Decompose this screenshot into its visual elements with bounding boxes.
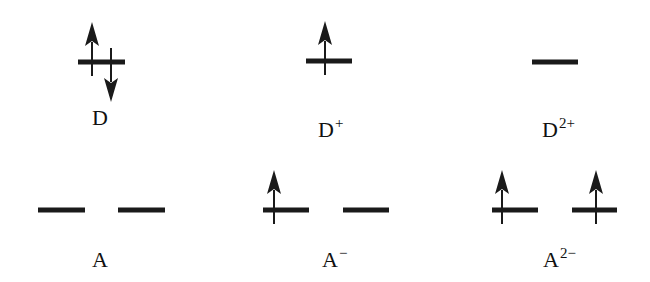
energy-level-bar	[38, 208, 85, 213]
spin-up-arrow-icon	[589, 170, 603, 224]
spin-up-arrow-icon	[495, 170, 509, 224]
energy-level-bar	[118, 208, 165, 213]
electron-spins	[85, 21, 603, 224]
energy-level-bar	[78, 60, 125, 65]
energy-level-bar	[492, 208, 538, 213]
spin-down-arrow-icon	[104, 48, 118, 102]
label-D-2plus: D2+	[542, 116, 575, 141]
label-A-2minus: A2−	[543, 246, 576, 271]
label-A: A	[92, 246, 109, 271]
spin-up-arrow-icon	[85, 22, 99, 76]
spin-up-arrow-icon	[267, 170, 281, 224]
energy-level-bar	[532, 60, 578, 65]
label-A-minus: A−	[322, 246, 347, 271]
label-D: D	[92, 104, 109, 129]
spin-up-arrow-icon	[318, 21, 332, 75]
energy-level-bar	[343, 208, 389, 213]
energy-level-bar	[306, 59, 352, 64]
label-D-plus: D+	[318, 116, 343, 141]
energy-level-bar	[263, 208, 309, 213]
energy-level-bar	[572, 208, 617, 213]
